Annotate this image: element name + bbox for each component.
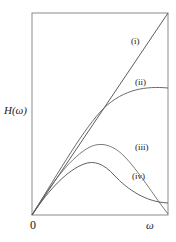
curve-iv [32, 162, 168, 215]
curve-label-iii: (iii) [135, 143, 149, 152]
y-axis-label: H(ω) [4, 105, 27, 116]
x-axis-label: ω [146, 220, 154, 231]
origin-tick-label: 0 [30, 219, 36, 231]
curve-label-ii: (ii) [135, 78, 146, 87]
curve-label-iv: (iv) [132, 172, 145, 181]
plot-canvas [0, 0, 176, 242]
figure-container: H(ω) ω 0 (i) (ii) (iii) (iv) [0, 0, 176, 242]
curve-iii [32, 144, 168, 215]
curve-label-i: (i) [131, 37, 140, 46]
